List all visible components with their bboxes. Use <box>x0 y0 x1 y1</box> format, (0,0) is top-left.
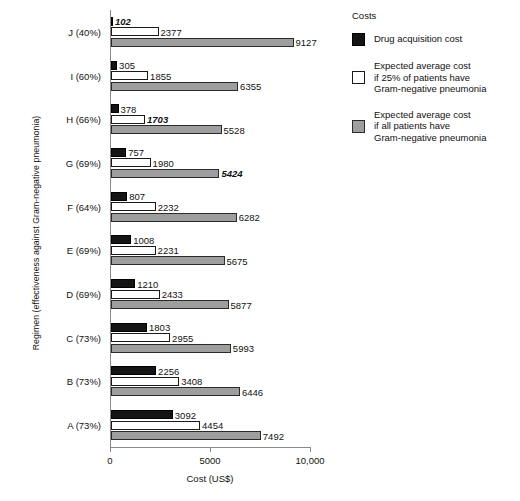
bar-value-label: 6355 <box>240 81 261 92</box>
x-tick <box>310 447 311 452</box>
y-axis-title: Regimen (effectiveness against Gram-nega… <box>31 93 41 373</box>
legend-swatch-gray <box>352 120 365 133</box>
bar: 378 <box>111 104 119 113</box>
bar-group: D (69%)121024335877 <box>110 279 310 309</box>
legend-entries: Drug acquisition costExpected average co… <box>352 33 512 144</box>
category-label: I (60%) <box>70 70 101 81</box>
legend-title: Costs <box>352 10 512 21</box>
bar: 2955 <box>111 333 170 342</box>
bar-group: E (69%)100822315675 <box>110 235 310 265</box>
bar-value-label: 2231 <box>158 245 179 256</box>
bar-value-label: 2377 <box>161 26 182 37</box>
bar-value-label: 4454 <box>202 420 223 431</box>
bar: 2232 <box>111 202 156 211</box>
bar-value-label: 5877 <box>231 299 252 310</box>
bar: 1980 <box>111 158 151 167</box>
bar-group: J (40%)10223779127 <box>110 17 310 47</box>
bar-group: G (69%)75719805424 <box>110 148 310 178</box>
bar-value-label: 1980 <box>153 157 174 168</box>
bar: 807 <box>111 192 127 201</box>
bar: 1210 <box>111 279 135 288</box>
category-label: D (69%) <box>66 289 101 300</box>
bar-value-label: 2955 <box>172 332 193 343</box>
bar-group: B (73%)225634086446 <box>110 366 310 396</box>
bar: 5528 <box>111 125 222 134</box>
category-label: C (73%) <box>66 332 101 343</box>
bar: 2377 <box>111 27 159 36</box>
legend-label: Expected average costif all patients hav… <box>374 109 486 144</box>
category-label: A (73%) <box>67 420 101 431</box>
bar-chart-figure: Regimen (effectiveness against Gram-nega… <box>0 0 520 501</box>
category-label: G (69%) <box>66 157 101 168</box>
bar-value-label: 5528 <box>224 124 245 135</box>
bar-value-label: 7492 <box>263 430 284 441</box>
bar: 757 <box>111 148 126 157</box>
bar: 7492 <box>111 431 261 440</box>
bar: 5877 <box>111 300 229 309</box>
legend-swatch-white <box>352 71 365 84</box>
bar: 1008 <box>111 235 131 244</box>
bar: 102 <box>111 17 113 26</box>
bar-value-label: 102 <box>115 16 131 27</box>
category-label: H (66%) <box>66 114 101 125</box>
bar-value-label: 1008 <box>133 234 154 245</box>
bar-value-label: 2232 <box>158 201 179 212</box>
category-label: F (64%) <box>67 201 101 212</box>
bar-value-label: 378 <box>121 103 137 114</box>
bar-group: H (66%)37817035528 <box>110 104 310 134</box>
bar-value-label: 5993 <box>233 343 254 354</box>
bar-value-label: 5675 <box>227 255 248 266</box>
x-axis-title: Cost (US$) <box>110 473 310 484</box>
category-label: J (40%) <box>68 26 101 37</box>
bar-value-label: 305 <box>119 60 135 71</box>
bar-value-label: 9127 <box>296 37 317 48</box>
bar-value-label: 757 <box>128 147 144 158</box>
bar: 2433 <box>111 290 160 299</box>
bar: 2256 <box>111 366 156 375</box>
bar-value-label: 1803 <box>149 322 170 333</box>
category-label: B (73%) <box>67 376 101 387</box>
bar-value-label: 5424 <box>221 168 242 179</box>
x-tick <box>110 447 111 452</box>
bar-value-label: 1210 <box>137 278 158 289</box>
x-tick-label: 0 <box>107 455 112 466</box>
bar: 3408 <box>111 377 179 386</box>
bar: 9127 <box>111 38 294 47</box>
bar-value-label: 6282 <box>239 212 260 223</box>
bar: 5675 <box>111 256 225 265</box>
bar: 1703 <box>111 115 145 124</box>
plot-area: J (40%)10223779127I (60%)30518556355H (6… <box>110 10 310 447</box>
bar: 1855 <box>111 71 148 80</box>
bar-value-label: 2256 <box>158 365 179 376</box>
bar: 3092 <box>111 410 173 419</box>
legend-swatch-black <box>352 33 365 46</box>
x-tick-label: 5000 <box>199 455 220 466</box>
bar-value-label: 807 <box>129 191 145 202</box>
legend-entry: Expected average costif 25% of patients … <box>352 60 512 95</box>
bar-value-label: 1703 <box>147 114 168 125</box>
x-tick-label: 10,000 <box>295 455 324 466</box>
bar: 1803 <box>111 323 147 332</box>
legend: Costs Drug acquisition costExpected aver… <box>352 10 512 158</box>
bar-value-label: 6446 <box>242 386 263 397</box>
bar: 305 <box>111 61 117 70</box>
bar: 5993 <box>111 344 231 353</box>
x-tick <box>210 447 211 452</box>
bar-value-label: 3408 <box>181 376 202 387</box>
bar-value-label: 1855 <box>150 70 171 81</box>
legend-label: Expected average costif 25% of patients … <box>374 60 486 95</box>
bar: 4454 <box>111 421 200 430</box>
bar-group: I (60%)30518556355 <box>110 61 310 91</box>
legend-label: Drug acquisition cost <box>374 33 462 45</box>
bar-group: C (73%)180329555993 <box>110 323 310 353</box>
legend-entry: Expected average costif all patients hav… <box>352 109 512 144</box>
bar: 6446 <box>111 387 240 396</box>
bar: 6282 <box>111 213 237 222</box>
bar: 2231 <box>111 246 156 255</box>
bar-group: A (73%)309244547492 <box>110 410 310 440</box>
bar-value-label: 3092 <box>175 409 196 420</box>
bar-group: F (64%)80722326282 <box>110 192 310 222</box>
bar: 6355 <box>111 82 238 91</box>
legend-entry: Drug acquisition cost <box>352 33 512 46</box>
bar: 5424 <box>111 169 219 178</box>
